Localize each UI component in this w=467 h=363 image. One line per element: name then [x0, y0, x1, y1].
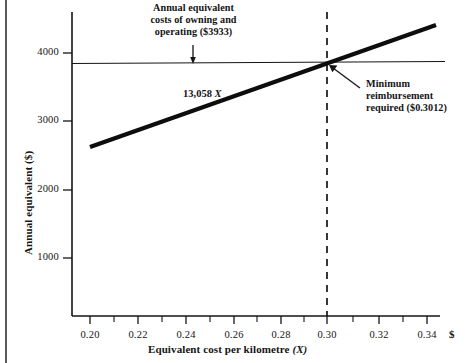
annotation-owning-operating-line1: Annual equivalent: [127, 2, 260, 14]
figure-container: Annual equivalent costs of owning and op…: [0, 0, 467, 363]
annotation-minimum-reimbursement-line1: Minimum: [366, 78, 467, 90]
annotation-owning-operating-line2: costs of owning and: [127, 14, 260, 26]
x-tick-label-0-34: 0.34: [413, 329, 441, 341]
x-axis-title-text: Equivalent cost per kilometre: [148, 343, 290, 355]
x-axis-minor-ticks: [114, 316, 403, 322]
x-axis-title: Equivalent cost per kilometre (X): [148, 343, 307, 356]
y-axis-title: Annual equivalent ($): [22, 151, 35, 255]
annotation-minimum-reimbursement-line2: reimbursement: [366, 90, 467, 102]
slope-label-number: 13,058: [183, 88, 212, 99]
annotation-top-arrow: [190, 45, 196, 64]
x-tick-label-0-22: 0.22: [124, 329, 152, 341]
annotation-slope-label: 13,058 X: [183, 88, 222, 100]
annotation-right-leader: [329, 65, 360, 88]
x-tick-label-0-28: 0.28: [267, 329, 295, 341]
y-tick-label-3000: 3000: [26, 114, 59, 126]
annotation-owning-operating: Annual equivalent costs of owning and op…: [127, 2, 260, 38]
annotation-minimum-reimbursement-line3: required ($0.3012): [366, 102, 467, 114]
y-tick-label-4000: 4000: [26, 46, 59, 58]
x-tick-label-0-20: 0.20: [76, 329, 104, 341]
y-axis-ticks: [63, 53, 72, 258]
x-tick-label-0-32: 0.32: [365, 329, 393, 341]
x-axis-title-variable: (X): [292, 343, 307, 355]
x-axis-major-ticks: [90, 316, 427, 324]
x-tick-label-0-26: 0.26: [220, 329, 248, 341]
annotation-owning-operating-line3: operating ($3933): [127, 26, 260, 38]
x-tick-label-0-30: 0.30: [313, 329, 341, 341]
x-axis-unit-symbol: $: [449, 328, 455, 341]
annotation-minimum-reimbursement: Minimum reimbursement required ($0.3012): [366, 78, 467, 114]
series-owning-operating-line: [72, 62, 445, 64]
x-tick-label-0-24: 0.24: [172, 329, 200, 341]
chart-plot-area: [0, 0, 467, 363]
slope-label-variable: X: [215, 88, 222, 99]
